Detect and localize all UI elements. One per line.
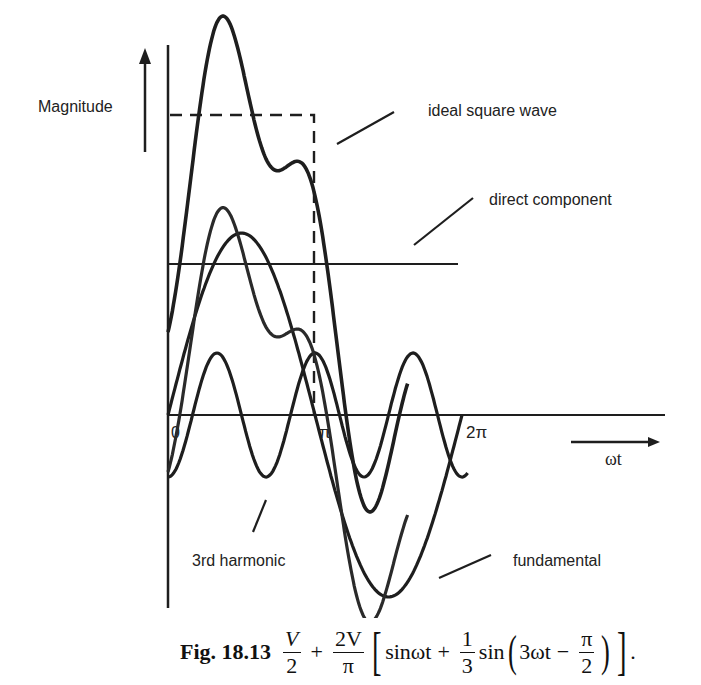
annotation-ideal-square-wave: ideal square wave — [428, 102, 557, 119]
fraction-pi-over-2: π 2 — [579, 628, 594, 677]
caption-figure-number: Fig. 18.13 — [180, 639, 271, 665]
tick-label-two-pi: 2π — [466, 423, 487, 442]
figure-caption: Fig. 18.13 V 2 + 2V π [ sinωt + 1 3 sin … — [0, 618, 701, 685]
leader-direct-component — [414, 198, 473, 245]
waveform-figure: Magnitude ωt 0 π 2π ideal square wave di… — [0, 0, 701, 618]
magnitude-arrow-icon — [139, 48, 151, 152]
caption-sin-omega-t: sinωt — [385, 639, 431, 665]
annotation-fundamental: fundamental — [513, 552, 601, 569]
leader-fundamental — [439, 555, 491, 578]
omega-t-arrow-icon — [571, 437, 660, 447]
annotation-direct-component: direct component — [489, 191, 612, 208]
x-axis-label: ωt — [605, 449, 622, 469]
leader-third-harmonic — [253, 500, 266, 532]
fraction-1-over-3: 1 3 — [460, 628, 475, 677]
leader-ideal-square-wave — [337, 112, 394, 144]
y-axis-label: Magnitude — [38, 98, 113, 115]
fraction-2v-over-pi: 2V π — [333, 628, 364, 677]
fraction-v-over-2: V 2 — [283, 628, 300, 677]
annotation-third-harmonic: 3rd harmonic — [192, 552, 285, 569]
